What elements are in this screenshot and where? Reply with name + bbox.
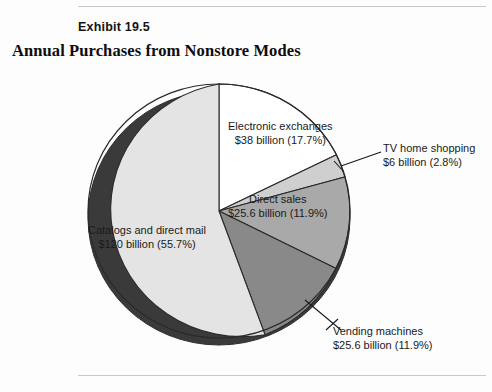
bottom-divider-rule	[78, 375, 486, 376]
slice-label-text: Direct sales	[228, 193, 327, 207]
slice-label-catalogs-and-direct-mail: Catalogs and direct mail $120 billion (5…	[88, 224, 206, 251]
slice-label-direct-sales: Direct sales $25.6 billion (11.9%)	[228, 193, 327, 220]
slice-label-text: TV home shopping	[383, 142, 475, 156]
slice-value-text: $25.6 billion (11.9%)	[333, 339, 432, 353]
slice-label-vending-machines: Vending machines $25.6 billion (11.9%)	[333, 325, 432, 352]
slice-value-text: $6 billion (2.8%)	[383, 156, 475, 170]
slice-label-tv-home-shopping: TV home shopping $6 billion (2.8%)	[383, 142, 475, 169]
slice-label-text: Catalogs and direct mail	[88, 224, 206, 238]
pie-chart: Electronic exchanges $38 billion (17.7%)…	[0, 0, 492, 392]
leader-line-tv-home-shopping	[341, 152, 381, 166]
slice-value-text: $38 billion (17.7%)	[228, 134, 333, 148]
slice-label-electronic-exchanges: Electronic exchanges $38 billion (17.7%)	[228, 120, 333, 147]
slice-label-text: Electronic exchanges	[228, 120, 333, 134]
slice-value-text: $25.6 billion (11.9%)	[228, 207, 327, 221]
slice-label-text: Vending machines	[333, 325, 432, 339]
slice-value-text: $120 billion (55.7%)	[88, 238, 206, 252]
exhibit-page: Exhibit 19.5 Annual Purchases from Nonst…	[0, 0, 492, 392]
